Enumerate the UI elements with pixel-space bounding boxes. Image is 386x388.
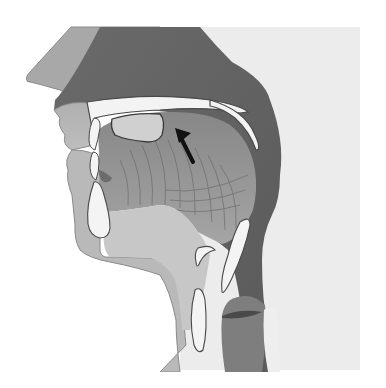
bottom-crop xyxy=(0,372,386,388)
anatomy-diagram xyxy=(0,0,386,388)
larynx xyxy=(221,296,266,372)
thyroid-cartilage xyxy=(191,289,206,352)
vocal-tract-illustration xyxy=(0,0,386,388)
